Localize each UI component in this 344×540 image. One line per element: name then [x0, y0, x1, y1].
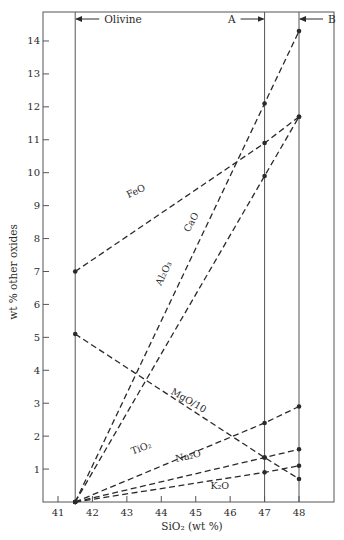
data-point-mgo10	[73, 332, 78, 337]
x-tick-label: 45	[189, 507, 202, 518]
y-tick-label: 8	[34, 233, 40, 244]
data-point-alo	[262, 101, 267, 106]
x-tick-label: 47	[258, 507, 271, 518]
y-tick-label: 6	[34, 299, 40, 310]
y-tick-label: 10	[27, 167, 40, 178]
series-label-cao: CaO	[181, 210, 201, 234]
y-tick-label: 12	[27, 101, 40, 112]
oxide-variation-chart: OlivineAB 123456789101112131441424344454…	[0, 0, 344, 540]
data-point-ko	[297, 463, 302, 468]
series-label-alo: Al₂O₃	[152, 259, 174, 288]
series-label-ko: K₂O	[210, 480, 229, 491]
series-label-tio: TiO₂	[129, 439, 153, 457]
reference-label-b: B	[328, 13, 336, 25]
data-point-feo	[262, 141, 267, 146]
data-point-cao	[262, 174, 267, 179]
data-point-nao	[262, 455, 267, 460]
y-tick-label: 5	[34, 332, 40, 343]
data-point-nao	[297, 447, 302, 452]
data-point-tio	[297, 404, 302, 409]
x-tick-label: 42	[86, 507, 99, 518]
x-tick-label: 41	[52, 507, 65, 518]
data-point-feo	[297, 114, 302, 119]
reference-label-olivine: Olivine	[104, 13, 142, 25]
series-line-feo	[75, 117, 299, 272]
x-tick-label: 46	[224, 507, 237, 518]
y-tick-label: 2	[34, 431, 40, 442]
x-tick-label: 48	[293, 507, 306, 518]
y-axis-title: wt % other oxides	[7, 224, 19, 320]
data-point-ko	[262, 470, 267, 475]
y-tick-label: 3	[34, 398, 40, 409]
y-tick-label: 7	[34, 266, 40, 277]
reference-lines: OlivineAB	[75, 12, 336, 502]
data-point-tio	[262, 421, 267, 426]
data-point-mgo10	[297, 477, 302, 482]
series-label-nao: Na₂O	[174, 447, 202, 464]
series-label-feo: FeO	[124, 182, 147, 201]
y-tick-label: 11	[27, 134, 40, 145]
y-tick-label: 4	[34, 365, 40, 376]
data-point-feo	[73, 269, 78, 274]
data-point-alo	[297, 29, 302, 34]
y-tick-label: 14	[27, 35, 40, 46]
reference-label-a: A	[227, 13, 236, 25]
series-label-mgo10: MgO/10	[169, 386, 208, 415]
x-tick-label: 44	[155, 507, 168, 518]
x-tick-label: 43	[120, 507, 133, 518]
y-tick-label: 1	[34, 464, 40, 475]
y-tick-label: 13	[27, 68, 40, 79]
x-axis-title: SiO₂ (wt %)	[161, 520, 222, 532]
plot-border	[43, 12, 334, 502]
y-tick-label: 9	[34, 200, 40, 211]
series-lines	[73, 29, 301, 504]
data-point-ko	[73, 500, 78, 505]
plot-frame	[43, 12, 334, 502]
